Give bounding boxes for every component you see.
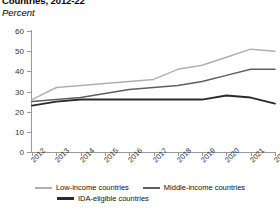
legend-row-2: IDA-eligible countries bbox=[0, 193, 280, 204]
y-axis-tick bbox=[27, 152, 31, 153]
series-line bbox=[32, 96, 275, 106]
series-lines bbox=[32, 31, 275, 152]
legend-label-ida-eligible: IDA-eligible countries bbox=[78, 194, 149, 203]
chart-subtitle: Percent bbox=[2, 7, 35, 18]
y-axis-tick bbox=[27, 71, 31, 72]
chart-figure: Countries, 2012-22 Percent 0102030405060… bbox=[0, 0, 280, 212]
y-axis-tick-label: 30 bbox=[15, 87, 24, 96]
legend-row-1: Low-income countries Middle-income count… bbox=[0, 182, 280, 193]
legend-item-middle-income: Middle-income countries bbox=[143, 183, 245, 192]
y-axis-tick-label: 10 bbox=[15, 127, 24, 136]
legend-label-low-income: Low-income countries bbox=[56, 183, 129, 192]
chart-title: Countries, 2012-22 bbox=[2, 0, 85, 6]
y-axis-tick bbox=[27, 132, 31, 133]
series-line bbox=[32, 49, 275, 99]
legend-item-low-income: Low-income countries bbox=[35, 183, 129, 192]
y-axis-tick-label: 60 bbox=[15, 27, 24, 36]
legend-label-middle-income: Middle-income countries bbox=[164, 183, 245, 192]
y-axis-tick-label: 40 bbox=[15, 67, 24, 76]
y-axis-tick bbox=[27, 112, 31, 113]
y-axis-tick bbox=[27, 31, 31, 32]
y-axis-tick-label: 0 bbox=[20, 148, 24, 157]
y-axis-tick-label: 50 bbox=[15, 47, 24, 56]
y-axis-tick-label: 20 bbox=[15, 107, 24, 116]
chart-legend: Low-income countries Middle-income count… bbox=[0, 182, 280, 204]
legend-swatch-low-income bbox=[35, 187, 52, 189]
plot-area bbox=[32, 31, 275, 152]
legend-swatch-middle-income bbox=[143, 187, 160, 189]
y-axis-tick bbox=[27, 51, 31, 52]
legend-swatch-ida-eligible bbox=[57, 197, 74, 199]
y-axis-tick bbox=[27, 92, 31, 93]
legend-item-ida-eligible: IDA-eligible countries bbox=[57, 194, 149, 203]
